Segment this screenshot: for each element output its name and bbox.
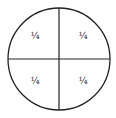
quadrant-label-top-left: ¼ (31, 31, 40, 41)
quadrant-label-top-right: ¼ (79, 31, 88, 41)
quarters-circle-diagram: ¼ ¼ ¼ ¼ (0, 0, 116, 118)
quadrant-label-bottom-right: ¼ (79, 76, 88, 86)
quadrant-label-bottom-left: ¼ (31, 76, 40, 86)
